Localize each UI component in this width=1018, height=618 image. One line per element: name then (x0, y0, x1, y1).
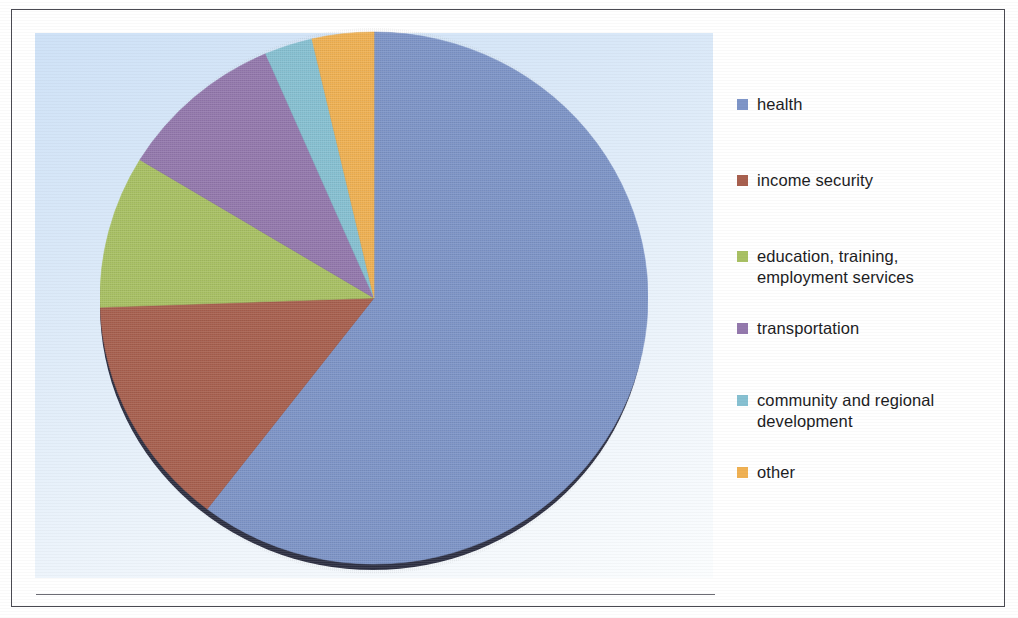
legend-swatch-other (737, 467, 748, 478)
legend-label-other: other (757, 462, 795, 483)
legend-item-education-training-employment-services[interactable]: education, training, employment services (737, 246, 914, 288)
legend-item-community-and-regional-development[interactable]: community and regional development (737, 390, 934, 432)
pie-slices-svg (100, 28, 648, 574)
legend-item-other[interactable]: other (737, 462, 795, 483)
legend-label-income-security: income security (757, 170, 873, 191)
legend-swatch-income-security (737, 175, 748, 186)
legend-label-transportation: transportation (757, 318, 859, 339)
legend-item-health[interactable]: health (737, 94, 803, 115)
legend-label-health: health (757, 94, 803, 115)
legend-swatch-education (737, 251, 748, 262)
legend-label-community: community and regional development (757, 390, 934, 432)
pie-graphic (100, 28, 648, 574)
legend-item-income-security[interactable]: income security (737, 170, 873, 191)
legend-swatch-health (737, 99, 748, 110)
legend-swatch-community (737, 395, 748, 406)
legend-label-education: education, training, employment services (757, 246, 914, 288)
legend-swatch-transportation (737, 323, 748, 334)
baseline-rule (36, 594, 715, 595)
pie-chart-figure: health income security education, traini… (0, 0, 1018, 618)
legend-item-transportation[interactable]: transportation (737, 318, 859, 339)
